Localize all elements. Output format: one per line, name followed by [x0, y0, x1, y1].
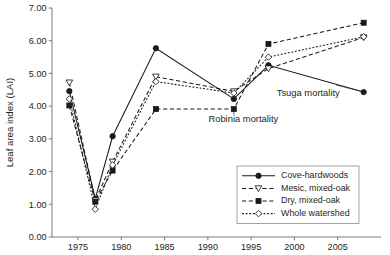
x-axis-ticks: 1975198019851990199520002005 — [68, 237, 348, 252]
data-point — [361, 89, 366, 94]
y-tick-label: 2.00 — [29, 167, 47, 177]
data-point — [266, 41, 271, 46]
annotation-label: Tsuga mortality — [277, 87, 340, 98]
x-tick-label: 1990 — [198, 242, 218, 252]
y-tick-label: 6.00 — [29, 36, 47, 46]
y-tick-label: 4.00 — [29, 101, 47, 111]
y-tick-label: 1.00 — [29, 200, 47, 210]
legend-item-label: Cove-hardwoods — [281, 170, 349, 180]
data-point — [66, 80, 73, 86]
chart-canvas: 0.001.002.003.004.005.006.007.0019751980… — [0, 0, 390, 255]
legend-item-label: Mesic, mixed-oak — [281, 183, 351, 193]
legend-marker-sample — [256, 199, 261, 204]
legend-marker-sample — [256, 173, 261, 178]
data-point — [231, 107, 236, 112]
y-tick-label: 5.00 — [29, 69, 47, 79]
legend: Cove-hardwoodsMesic, mixed-oakDry, mixed… — [237, 166, 359, 223]
lai-line-chart: 0.001.002.003.004.005.006.007.0019751980… — [0, 0, 390, 255]
x-tick-label: 2000 — [284, 242, 304, 252]
data-point — [67, 103, 72, 108]
y-axis-title: Leaf area index (LAI) — [4, 78, 15, 168]
y-tick-label: 3.00 — [29, 134, 47, 144]
data-point — [110, 168, 115, 173]
x-tick-label: 2005 — [328, 242, 348, 252]
data-point — [361, 20, 366, 25]
data-point — [265, 54, 271, 60]
legend-item-label: Whole watershed — [281, 208, 350, 218]
data-point — [153, 46, 158, 51]
data-point — [93, 199, 98, 204]
data-point — [153, 78, 159, 84]
data-point — [153, 107, 158, 112]
x-tick-label: 1975 — [68, 242, 88, 252]
data-point — [67, 88, 72, 93]
x-tick-label: 1980 — [111, 242, 131, 252]
x-tick-label: 1995 — [241, 242, 261, 252]
data-point — [265, 66, 272, 72]
y-axis-ticks: 0.001.002.003.004.005.006.007.00 — [29, 3, 52, 242]
legend-item-label: Dry, mixed-oak — [281, 195, 341, 205]
y-tick-label: 7.00 — [29, 3, 47, 13]
annotation-label: Robinia mortality — [208, 113, 278, 124]
data-point — [231, 96, 236, 101]
data-point — [92, 206, 98, 212]
x-tick-label: 1985 — [154, 242, 174, 252]
data-point — [110, 134, 115, 139]
y-tick-label: 0.00 — [29, 232, 47, 242]
